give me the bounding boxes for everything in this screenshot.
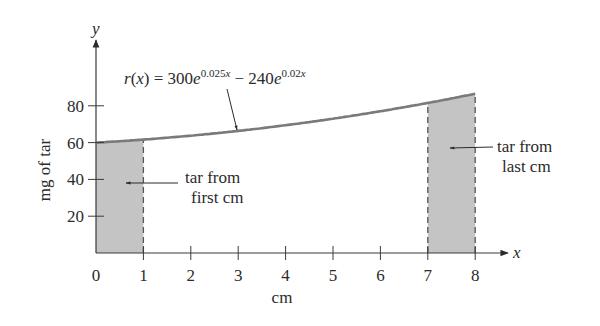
plot-area: 01234567820406080 y x cm mg of tar r(x) … bbox=[0, 0, 600, 326]
curve-pointer-arrow bbox=[227, 89, 237, 130]
y-tick-label: 60 bbox=[67, 134, 84, 153]
curve bbox=[96, 94, 475, 143]
x-tick-label: 2 bbox=[187, 266, 196, 285]
x-tick-label: 0 bbox=[92, 266, 101, 285]
x-tick-label: 6 bbox=[376, 266, 385, 285]
y-tick-label: 40 bbox=[67, 170, 84, 189]
annotation-last-line1: tar from bbox=[497, 137, 552, 156]
x-tick-label: 7 bbox=[424, 266, 433, 285]
shaded-region bbox=[428, 94, 475, 253]
x-tick-label: 8 bbox=[471, 266, 480, 285]
function-label: r(x) = 300e0.025x − 240e0.02x bbox=[124, 67, 306, 88]
annotation-last-line2: last cm bbox=[502, 157, 551, 176]
y-tick-label: 80 bbox=[67, 97, 84, 116]
x-tick-label: 5 bbox=[329, 266, 338, 285]
y-tick-label: 20 bbox=[67, 207, 84, 226]
annotation-first-line1: tar from bbox=[185, 168, 240, 187]
y-axis-symbol: y bbox=[90, 19, 100, 38]
shaded-region bbox=[96, 140, 143, 253]
shaded-regions bbox=[96, 94, 475, 253]
x-axis-label: cm bbox=[272, 288, 293, 307]
annotation-first-line2: first cm bbox=[191, 188, 243, 207]
x-axis-symbol: x bbox=[512, 243, 521, 262]
chart: 01234567820406080 y x cm mg of tar r(x) … bbox=[0, 0, 600, 326]
y-axis-label: mg of tar bbox=[35, 139, 54, 202]
x-tick-label: 4 bbox=[281, 266, 290, 285]
x-tick-label: 3 bbox=[234, 266, 243, 285]
x-tick-label: 1 bbox=[139, 266, 148, 285]
